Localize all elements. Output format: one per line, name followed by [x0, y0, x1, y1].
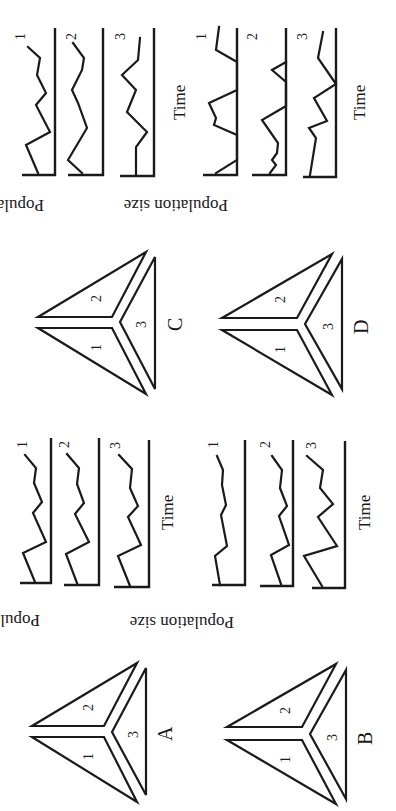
panel-a-series-2-line	[66, 454, 89, 583]
panel-b-series-2-label: 2	[258, 441, 273, 448]
panel-b-population-label: Population size	[130, 613, 234, 632]
panel-a-population-label: Population size	[0, 611, 40, 630]
panel-c-timeseries: 1 2 3 Time Population size	[0, 28, 189, 215]
panel-b-patches: 1 2 3 B	[227, 664, 376, 804]
panel-d-series-1-label: 1	[194, 33, 209, 40]
panel-d-population-label: Population size	[124, 196, 228, 215]
panel-d-label: D	[350, 320, 372, 334]
panel-a-timeseries: 1 2 3 Time Population size	[0, 438, 177, 630]
panel-b-series-2-line	[271, 456, 289, 584]
panel-c-series-1-line	[26, 47, 50, 173]
metapopulation-figure: 1 2 3 Time Population size 1 2 3 Time Po…	[0, 0, 396, 811]
panel-c-patches: 1 2 3 C	[38, 252, 186, 394]
panel-a-series-3-label: 3	[108, 442, 123, 449]
panel-c-series-1-label: 1	[13, 33, 28, 40]
panel-d-patch-3-label: 3	[321, 323, 336, 330]
panel-d-patch-1-label: 1	[273, 346, 288, 353]
panel-b-patch-1-label: 1	[278, 756, 293, 763]
panel-b-axis-3	[312, 441, 345, 588]
panel-a-series-1-label: 1	[15, 441, 30, 448]
panel-c-series-3-line	[122, 38, 147, 175]
panel-a-patch-1-label: 1	[81, 753, 96, 760]
panel-b-timeseries: 1 2 3 Time Population size	[130, 440, 374, 632]
panel-a-series-1-line	[23, 455, 46, 582]
panel-c-series-2-line	[68, 43, 87, 173]
panel-b-time-label: Time	[355, 495, 374, 530]
panel-d-time-label: Time	[350, 85, 369, 120]
panel-b-series-3-label: 3	[304, 442, 319, 449]
panel-c-series-2-label: 2	[64, 33, 79, 40]
panel-d-timeseries: 1 2 3 Time Population size	[124, 27, 369, 215]
panel-b-label: B	[354, 732, 376, 745]
panel-d-patch-2-label: 2	[273, 296, 288, 303]
panel-a-patch-2-label: 2	[81, 704, 96, 711]
panel-d-series-2-label: 2	[245, 33, 260, 40]
panel-d-axis-2	[252, 28, 286, 175]
panel-d-series-3-line	[309, 32, 336, 175]
panel-a-label: A	[154, 726, 176, 741]
panel-b-patch-2-label: 2	[278, 707, 293, 714]
panel-c-patch-1-label: 1	[89, 344, 104, 351]
panel-b-patch-3-label: 3	[325, 734, 340, 741]
panel-a-series-2-label: 2	[57, 441, 72, 448]
panel-a-patches: 1 2 3 A	[32, 663, 176, 802]
panel-d-series-1-line	[209, 27, 237, 173]
panel-d-series-3-label: 3	[295, 33, 310, 40]
panel-c-time-label: Time	[170, 85, 189, 120]
panel-b-series-1-label: 1	[206, 441, 221, 448]
panel-d-patches: 1 2 3 D	[222, 254, 372, 395]
panel-d-axis-1	[203, 28, 237, 175]
panel-d-series-2-line	[262, 62, 286, 173]
panel-c-population-label: Population size	[0, 196, 44, 215]
panel-c-label: C	[164, 318, 186, 331]
panel-a-time-label: Time	[158, 495, 177, 530]
panel-a-patch-3-label: 3	[126, 731, 141, 738]
panel-c-patch-3-label: 3	[134, 321, 149, 328]
panel-c-series-3-label: 3	[113, 33, 128, 40]
panel-c-patch-2-label: 2	[89, 295, 104, 302]
panel-a-series-3-line	[118, 455, 141, 586]
panel-b-series-3-line	[304, 456, 337, 586]
panel-b-series-1-line	[215, 456, 227, 585]
